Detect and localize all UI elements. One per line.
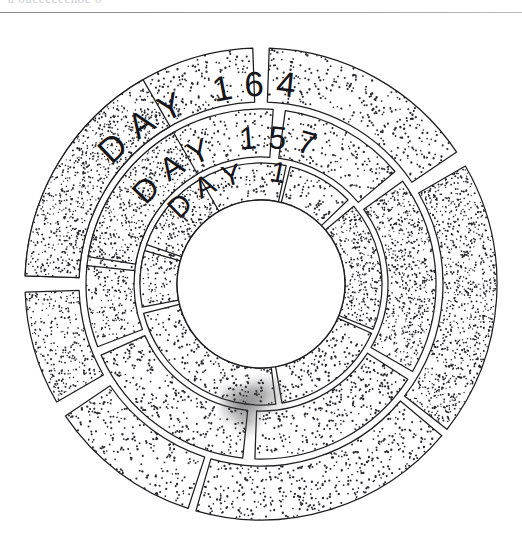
ring-segment[interactable] [140, 251, 180, 307]
header-divider [0, 12, 522, 13]
rings-root [25, 48, 497, 522]
ring-chart-figure: DAY 164 DAY 157 DAY 1 [0, 14, 522, 550]
ring-chart-svg: DAY 164 DAY 157 DAY 1 [0, 14, 522, 550]
center-hub [177, 200, 345, 368]
ring-segment[interactable] [86, 266, 143, 347]
clipped-header-strip: a oueeeeeenoe o [0, 0, 522, 11]
clipped-header-text: a oueeeeeenoe o [8, 0, 102, 7]
